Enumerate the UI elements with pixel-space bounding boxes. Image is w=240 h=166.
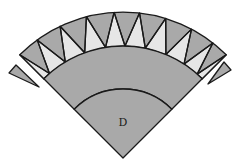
center-label-d: D [119, 116, 128, 129]
quilt-fan-diagram: D [0, 0, 240, 166]
